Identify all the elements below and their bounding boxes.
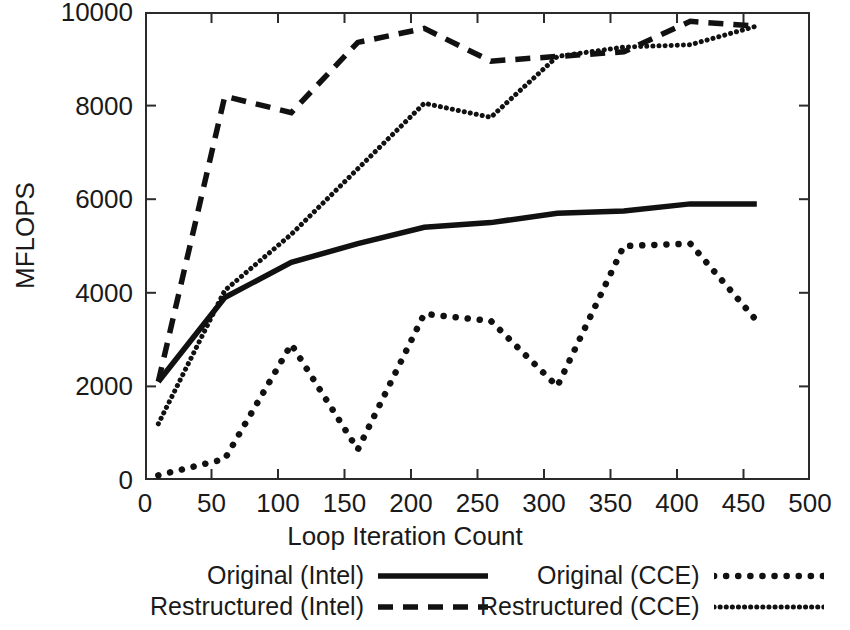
legend-line-swatch	[378, 599, 488, 615]
legend-line-swatch	[714, 568, 824, 584]
x-tick-label: 200	[389, 488, 432, 519]
x-tick-label: 450	[722, 488, 765, 519]
legend-item-label: Original (CCE)	[537, 561, 700, 590]
x-tick-label: 50	[197, 488, 226, 519]
chart-legend: Original (Intel)Restructured (Intel) Ori…	[0, 560, 850, 622]
x-axis-title: Loop Iteration Count	[0, 521, 850, 552]
series-line	[158, 21, 757, 381]
plot-area	[145, 12, 810, 480]
legend-item[interactable]: Original (Intel)	[207, 560, 488, 591]
y-tick-label: 4000	[75, 277, 133, 308]
legend-item[interactable]: Restructured (CCE)	[480, 591, 824, 622]
x-axis-title-text: Loop Iteration Count	[287, 521, 523, 551]
y-tick-label: 6000	[75, 184, 133, 215]
y-tick-label: 8000	[75, 90, 133, 121]
legend-item[interactable]: Restructured (Intel)	[150, 591, 488, 622]
x-tick-label: 500	[788, 488, 831, 519]
y-tick-label: 10000	[61, 0, 133, 28]
legend-column-right: Original (CCE)Restructured (CCE)	[480, 560, 824, 622]
x-tick-label: 350	[589, 488, 632, 519]
x-tick-label: 250	[456, 488, 499, 519]
x-tick-label: 100	[256, 488, 299, 519]
series-line	[158, 244, 757, 476]
x-tick-label: 0	[138, 488, 152, 519]
legend-column-left: Original (Intel)Restructured (Intel)	[150, 560, 488, 622]
legend-item-label: Restructured (Intel)	[150, 592, 364, 621]
legend-line-swatch	[714, 599, 824, 615]
legend-item-label: Restructured (CCE)	[480, 592, 700, 621]
legend-line-swatch	[378, 568, 488, 584]
legend-item[interactable]: Original (CCE)	[537, 560, 824, 591]
series-line	[158, 204, 757, 382]
series-lines	[145, 12, 810, 480]
y-tick-label: 2000	[75, 371, 133, 402]
chart-figure: MFLOPS 0200040006000800010000 0501001502…	[0, 0, 850, 630]
x-axis-tick-labels: 050100150200250300350400450500	[0, 488, 850, 524]
x-tick-label: 400	[655, 488, 698, 519]
x-tick-label: 150	[323, 488, 366, 519]
legend-item-label: Original (Intel)	[207, 561, 364, 590]
x-tick-label: 300	[522, 488, 565, 519]
